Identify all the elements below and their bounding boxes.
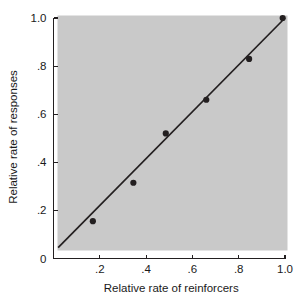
x-axis-title: Relative rate of reinforcers — [104, 282, 239, 294]
y-axis-tick-label: .8 — [37, 60, 47, 72]
data-point — [90, 218, 96, 224]
scatter-plot-figure: 0.2.4.6.81.0.2.4.6.81.0Relative rate of … — [0, 0, 304, 298]
data-point — [203, 97, 209, 103]
y-axis-tick-label: .2 — [37, 204, 47, 216]
data-point — [246, 56, 252, 62]
data-point — [130, 180, 136, 186]
data-point — [280, 15, 286, 21]
y-axis-tick-label: .6 — [37, 108, 47, 120]
data-point — [163, 130, 169, 136]
x-axis-tick-label: .4 — [141, 263, 151, 275]
y-axis-tick-label: 0 — [40, 253, 46, 265]
x-axis-tick-label: .6 — [188, 263, 198, 275]
y-axis-tick-label: .4 — [37, 156, 47, 168]
x-axis-tick-label: .2 — [95, 263, 105, 275]
x-axis-tick-label: 1.0 — [277, 263, 293, 275]
y-axis-tick-label: 1.0 — [31, 12, 47, 24]
y-axis-title: Relative rate of responses — [7, 70, 19, 204]
x-axis-tick-label: .8 — [234, 263, 244, 275]
